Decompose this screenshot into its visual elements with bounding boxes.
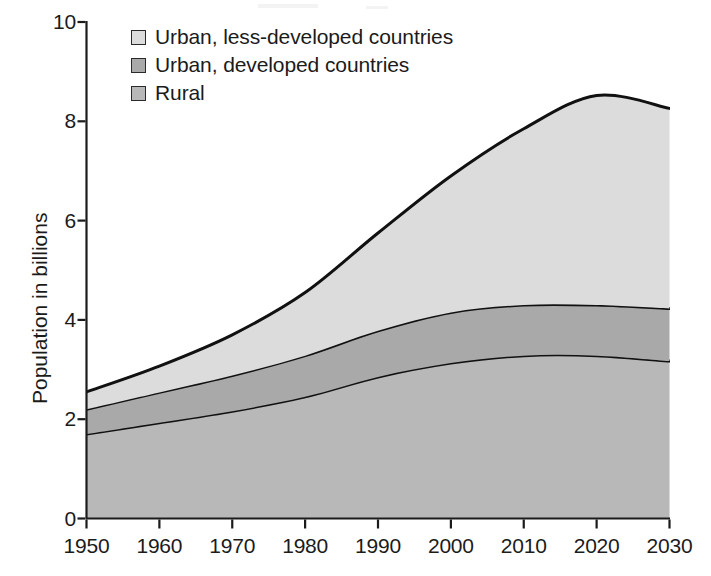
y-axis-label-10: 10 [40, 10, 76, 34]
y-axis-label-6: 6 [40, 209, 76, 233]
x-axis-label-1990: 1990 [355, 534, 401, 558]
x-axis-label-1970: 1970 [209, 534, 255, 558]
y-axis-label-4: 4 [40, 308, 76, 332]
x-axis-label-2020: 2020 [574, 534, 620, 558]
x-axis-label-1980: 1980 [282, 534, 328, 558]
legend-item-label: Urban, developed countries [155, 53, 409, 77]
x-axis-label-2000: 2000 [428, 534, 474, 558]
y-axis-label-0: 0 [40, 507, 76, 531]
legend-item-3: Rural [131, 80, 453, 106]
legend-item-label: Urban, less-developed countries [155, 25, 453, 49]
population-area-chart: Population in billions 1086420 195019601… [0, 0, 711, 576]
legend-item-2: Urban, developed countries [131, 52, 453, 78]
legend-swatch-icon [131, 58, 146, 73]
y-axis-label-2: 2 [40, 407, 76, 431]
legend-item-1: Urban, less-developed countries [131, 24, 453, 50]
legend-item-label: Rural [155, 81, 205, 105]
x-axis-label-1960: 1960 [136, 534, 182, 558]
x-axis-label-1950: 1950 [64, 534, 110, 558]
y-axis-label-8: 8 [40, 109, 76, 133]
x-axis-label-2030: 2030 [647, 534, 693, 558]
chart-legend: Urban, less-developed countriesUrban, de… [131, 24, 453, 108]
legend-swatch-icon [131, 30, 146, 45]
x-axis-label-2010: 2010 [501, 534, 547, 558]
legend-swatch-icon [131, 86, 146, 101]
